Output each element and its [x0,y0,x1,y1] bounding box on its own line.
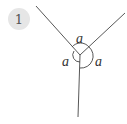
angle-diagram: a a a [0,0,127,124]
angle-label-top: a [76,31,83,46]
ray-down [78,55,80,117]
angle-label-left: a [62,54,69,69]
angle-arc-left [73,51,80,62]
ray-top-left [36,6,80,55]
angle-arc-right [80,47,93,68]
angle-label-right: a [95,54,102,69]
ray-top-right [80,13,125,55]
